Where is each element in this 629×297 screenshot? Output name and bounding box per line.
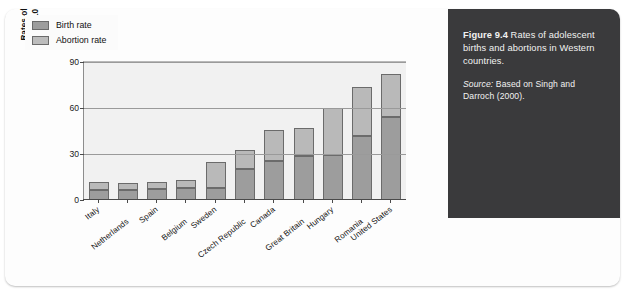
x-tick-mark <box>303 199 304 203</box>
bar-segment-abortion-rate <box>118 183 138 189</box>
bar-segment-birth-rate <box>294 156 314 200</box>
chart-legend: Birth rate Abortion rate <box>25 15 118 50</box>
bar-column <box>89 182 109 200</box>
legend-label-birth-rate: Birth rate <box>56 20 92 30</box>
legend-swatch-abortion-rate <box>32 36 49 45</box>
page-root: Rates of births and abortions per 1000 g… <box>0 0 629 297</box>
x-tick-mark <box>273 199 274 203</box>
bar-column <box>352 87 372 200</box>
figure-source: Source: Based on Singh and Darroch (2000… <box>463 78 604 102</box>
chart-region: Rates of births and abortions per 1000 g… <box>5 9 453 286</box>
x-tick-label: Hungary <box>305 205 335 231</box>
caption-inner: Figure 9.4 Rates of adolescent births an… <box>448 9 620 102</box>
bar-segment-abortion-rate <box>323 108 343 155</box>
y-tick-label-0: 0 <box>74 195 79 205</box>
x-tick-mark <box>185 199 186 203</box>
bar-segment-birth-rate <box>323 155 343 200</box>
x-tick-mark <box>127 199 128 203</box>
bar-segment-abortion-rate <box>352 87 372 137</box>
bars-group <box>84 62 406 200</box>
legend-swatch-birth-rate <box>32 21 49 30</box>
x-tick-label: Belgium <box>160 217 189 243</box>
y-tick-mark-90 <box>80 62 84 63</box>
x-tick-label: Netherlands <box>90 217 131 252</box>
x-tick-mark <box>244 199 245 203</box>
y-tick-mark-30 <box>80 154 84 155</box>
x-tick-label: Great Britain <box>264 217 306 253</box>
x-tick-label: Romania <box>333 217 365 244</box>
bar-column <box>118 183 138 200</box>
x-tick-mark <box>390 199 391 203</box>
figure-number: Figure 9.4 <box>463 30 508 40</box>
bar-segment-abortion-rate <box>264 130 284 161</box>
figure-source-label: Source: <box>463 79 493 89</box>
bar-column <box>264 130 284 200</box>
x-tick-mark <box>215 199 216 203</box>
legend-item-birth-rate: Birth rate <box>32 20 106 30</box>
x-tick-label: Czech Republic <box>196 217 247 260</box>
bar-segment-birth-rate <box>352 136 372 200</box>
caption-panel: Figure 9.4 Rates of adolescent births an… <box>448 9 620 218</box>
x-tick-mark <box>156 199 157 203</box>
legend-label-abortion-rate: Abortion rate <box>56 35 106 45</box>
y-tick-label-90: 90 <box>69 57 79 67</box>
gridline-90 <box>84 62 406 63</box>
bar-column <box>147 182 167 200</box>
x-tick-label: United States <box>349 205 394 243</box>
y-tick-label-30: 30 <box>69 149 79 159</box>
legend-item-abortion-rate: Abortion rate <box>32 35 106 45</box>
bar-column <box>176 180 196 200</box>
x-tick-mark <box>361 199 362 203</box>
bar-segment-abortion-rate <box>147 182 167 190</box>
bar-segment-birth-rate <box>264 161 284 200</box>
x-tick-label: Spain <box>137 205 159 225</box>
gridline-30 <box>84 154 406 155</box>
bar-segment-abortion-rate <box>294 128 314 156</box>
x-tick-label: Canada <box>248 205 276 230</box>
y-tick-label-60: 60 <box>69 103 79 113</box>
bar-segment-abortion-rate <box>89 182 109 190</box>
bar-column <box>206 162 226 200</box>
bar-column <box>235 150 255 200</box>
bar-column <box>294 128 314 200</box>
plot-area: 0306090 <box>83 61 406 200</box>
bar-column <box>381 74 401 201</box>
bar-segment-abortion-rate <box>381 74 401 117</box>
bar-segment-birth-rate <box>381 117 401 200</box>
bar-segment-birth-rate <box>235 169 255 200</box>
x-tick-mark <box>332 199 333 203</box>
gridline-60 <box>84 108 406 109</box>
x-tick-label: Italy <box>84 205 102 222</box>
y-tick-mark-60 <box>80 108 84 109</box>
y-tick-mark-0 <box>80 200 84 201</box>
figure-caption: Figure 9.4 Rates of adolescent births an… <box>463 29 604 69</box>
bar-segment-abortion-rate <box>176 180 196 188</box>
x-tick-label: Sweden <box>189 205 218 230</box>
bar-segment-abortion-rate <box>206 162 226 188</box>
x-tick-mark <box>98 199 99 203</box>
